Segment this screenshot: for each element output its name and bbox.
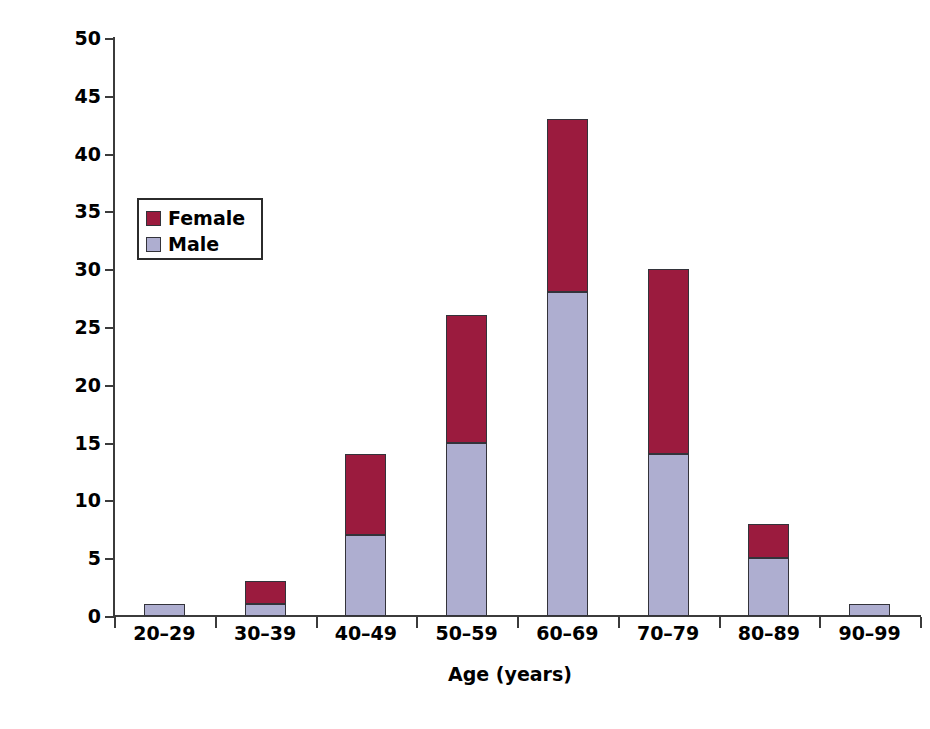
y-tick-mark: [105, 96, 114, 98]
y-tick-label: 45: [75, 85, 101, 107]
y-tick-mark: [105, 211, 114, 213]
bar-segment-female[interactable]: [748, 524, 789, 559]
legend-label-male: Male: [168, 233, 219, 255]
bar-segment-female[interactable]: [245, 581, 286, 604]
bar-60–69[interactable]: [547, 119, 588, 616]
bar-segment-female[interactable]: [648, 269, 689, 454]
x-tick-mark: [618, 617, 620, 628]
bar-segment-male[interactable]: [849, 604, 890, 616]
x-tick-label: 60–69: [536, 622, 598, 644]
legend-item-male[interactable]: Male: [146, 231, 261, 257]
x-axis-title: Age (years): [110, 663, 910, 685]
x-tick-mark: [416, 617, 418, 628]
bar-segment-male[interactable]: [245, 604, 286, 616]
bar-20–29[interactable]: [144, 604, 185, 616]
stacked-bar-chart: Number of patients 05101520253035404550 …: [0, 0, 930, 729]
y-tick-mark: [105, 558, 114, 560]
y-tick-mark: [105, 154, 114, 156]
x-tick-mark: [920, 617, 922, 628]
y-tick-label: 50: [75, 27, 101, 49]
bar-50–59[interactable]: [446, 315, 487, 616]
y-tick-label: 5: [88, 547, 101, 569]
y-tick-mark: [105, 616, 114, 618]
x-tick-label: 50–59: [435, 622, 497, 644]
bar-segment-female[interactable]: [446, 315, 487, 442]
legend-item-female[interactable]: Female: [146, 205, 261, 231]
bar-segment-male[interactable]: [547, 292, 588, 616]
x-tick-label: 20–29: [133, 622, 195, 644]
x-tick-mark: [316, 617, 318, 628]
x-tick-label: 30–39: [234, 622, 296, 644]
y-tick-label: 35: [75, 200, 101, 222]
y-tick-label: 20: [75, 374, 101, 396]
x-tick-mark: [517, 617, 519, 628]
y-tick-label: 10: [75, 489, 101, 511]
bar-segment-female[interactable]: [547, 119, 588, 292]
y-tick-label: 40: [75, 143, 101, 165]
bar-30–39[interactable]: [245, 581, 286, 616]
legend-swatch-male-icon: [146, 237, 161, 252]
bar-90–99[interactable]: [849, 604, 890, 616]
x-tick-label: 40–49: [335, 622, 397, 644]
legend-swatch-female-icon: [146, 211, 161, 226]
y-tick-mark: [105, 443, 114, 445]
bar-segment-male[interactable]: [748, 558, 789, 616]
chart-legend: Female Male: [137, 198, 263, 260]
y-tick-mark: [105, 38, 114, 40]
bar-70–79[interactable]: [648, 269, 689, 616]
bar-80–89[interactable]: [748, 524, 789, 616]
x-tick-label: 90–99: [838, 622, 900, 644]
legend-label-female: Female: [168, 207, 245, 229]
y-tick-mark: [105, 385, 114, 387]
x-tick-label: 80–89: [738, 622, 800, 644]
x-tick-mark: [114, 617, 116, 628]
bar-segment-female[interactable]: [345, 454, 386, 535]
y-tick-mark: [105, 269, 114, 271]
x-tick-mark: [719, 617, 721, 628]
bar-segment-male[interactable]: [648, 454, 689, 616]
y-tick-label: 30: [75, 258, 101, 280]
y-tick-mark: [105, 327, 114, 329]
y-tick-label: 0: [88, 605, 101, 627]
y-tick-label: 15: [75, 432, 101, 454]
bar-40–49[interactable]: [345, 454, 386, 616]
x-tick-mark: [215, 617, 217, 628]
bar-segment-male[interactable]: [144, 604, 185, 616]
x-tick-mark: [819, 617, 821, 628]
y-tick-label: 25: [75, 316, 101, 338]
bar-segment-male[interactable]: [345, 535, 386, 616]
x-tick-label: 70–79: [637, 622, 699, 644]
bar-segment-male[interactable]: [446, 443, 487, 616]
plot-area: 05101520253035404550: [114, 38, 920, 616]
y-tick-mark: [105, 500, 114, 502]
